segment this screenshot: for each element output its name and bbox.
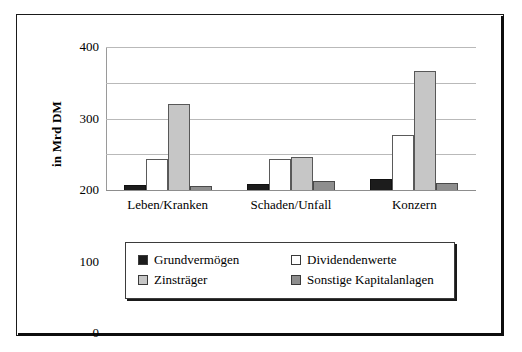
legend-item-grundvermoegen[interactable]: Grundvermögen — [138, 250, 291, 270]
bar[interactable] — [146, 159, 168, 190]
legend-label: Zinsträger — [154, 272, 207, 288]
bar[interactable] — [269, 159, 291, 190]
y-axis-label: in Mrd DM — [46, 74, 68, 194]
y-axis-tick-label: 100 — [80, 254, 100, 270]
legend-label: Sonstige Kapitalanlagen — [307, 272, 434, 288]
bar[interactable] — [370, 179, 392, 190]
bar[interactable] — [414, 71, 436, 190]
chart-legend: Grundvermögen Dividendenwerte Zinsträger… — [125, 242, 455, 299]
bar-chart: in Mrd DM 0100200300400 Leben/KrankenSch… — [16, 14, 504, 336]
y-axis-label-text: in Mrd DM — [49, 101, 65, 167]
bar[interactable] — [247, 184, 269, 190]
plot-area: 0100200300400 — [106, 47, 476, 190]
y-axis-tick-label: 200 — [80, 182, 100, 198]
x-axis-tick-label: Leben/Kranken — [106, 197, 229, 213]
bar[interactable] — [291, 157, 313, 190]
legend-swatch-icon — [138, 275, 148, 285]
x-axis-tick-label: Schaden/Unfall — [229, 197, 352, 213]
chart-page: in Mrd DM 0100200300400 Leben/KrankenSch… — [0, 0, 522, 352]
legend-swatch-icon — [291, 255, 301, 265]
legend-swatch-icon — [291, 275, 301, 285]
y-axis-tick-label: 400 — [80, 39, 100, 55]
x-axis-tick-labels: Leben/KrankenSchaden/UnfallKonzern — [106, 197, 476, 213]
bar-groups — [106, 47, 476, 190]
bar-group — [353, 47, 476, 190]
legend-item-zinstraeger[interactable]: Zinsträger — [138, 270, 291, 290]
bar-group — [106, 47, 229, 190]
x-axis-tick-label: Konzern — [353, 197, 476, 213]
legend-item-sonstige-kapitalanlagen[interactable]: Sonstige Kapitalanlagen — [291, 270, 444, 290]
legend-label: Dividendenwerte — [307, 252, 397, 268]
bar[interactable] — [168, 104, 190, 190]
bar[interactable] — [124, 185, 146, 190]
bar[interactable] — [436, 183, 458, 190]
bar[interactable] — [190, 186, 212, 190]
y-axis-tick-label: 0 — [93, 325, 100, 341]
legend-label: Grundvermögen — [154, 252, 239, 268]
legend-row: Zinsträger Sonstige Kapitalanlagen — [138, 270, 444, 290]
gridline: 0 — [106, 190, 476, 191]
legend-item-dividendenwerte[interactable]: Dividendenwerte — [291, 250, 444, 270]
legend-swatch-icon — [138, 255, 148, 265]
bar[interactable] — [313, 181, 335, 190]
legend-row: Grundvermögen Dividendenwerte — [138, 250, 444, 270]
bar-group — [229, 47, 352, 190]
y-axis-tick-label: 300 — [80, 111, 100, 127]
bar[interactable] — [392, 135, 414, 190]
